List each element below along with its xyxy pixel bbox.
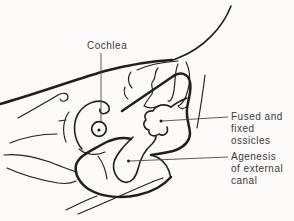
cochlea-center-dot	[97, 128, 100, 131]
cochlea-spiral	[75, 101, 110, 149]
bone-mass-inner-line	[98, 156, 107, 179]
fused-ossicles-label-line1: Fused and	[231, 111, 283, 123]
agenesis-label-line2: of external	[231, 163, 283, 175]
mastoid-cell-left-2	[124, 87, 128, 99]
cheek-fold-lower	[7, 168, 76, 183]
mastoid-cell-right-inner	[168, 64, 178, 101]
mastoid-cell-zigzag	[144, 68, 161, 108]
fused-ossicles-pointer-dot	[160, 120, 163, 123]
fused-ossicles-label: Fused and fixed ossicles	[231, 111, 283, 147]
fused-ossicles-leader-line	[162, 117, 228, 121]
inner-wall-contour	[197, 75, 205, 128]
canal-wall-lower-connector	[151, 155, 171, 177]
cochlea-label: Cochlea	[87, 40, 127, 52]
fused-ossicles-label-line3: ossicles	[231, 135, 283, 147]
cochlea-left-arc	[64, 112, 69, 142]
skull-upper-right-sweep	[172, 6, 231, 60]
temporal-contour-lower	[10, 134, 57, 143]
agenesis-label-line1: Agenesis	[231, 151, 283, 163]
petrous-ridge-and-canal-wall	[122, 74, 191, 155]
agenesis-label-line3: canal	[231, 175, 283, 187]
atretic-external-canal	[114, 136, 156, 182]
neck-line-long	[78, 178, 163, 214]
fused-ossicles-label-line2: fixed	[231, 123, 283, 135]
cheek-fold-upper	[4, 154, 77, 172]
agenesis-pointer-dot	[127, 160, 130, 163]
ear-anatomy-figure: Cochlea Fused and fixed ossicles Agenesi…	[0, 0, 294, 221]
agenesis-label: Agenesis of external canal	[231, 151, 283, 187]
agenesis-leader-line	[130, 157, 228, 161]
mastoid-cell-left-1	[128, 72, 132, 88]
